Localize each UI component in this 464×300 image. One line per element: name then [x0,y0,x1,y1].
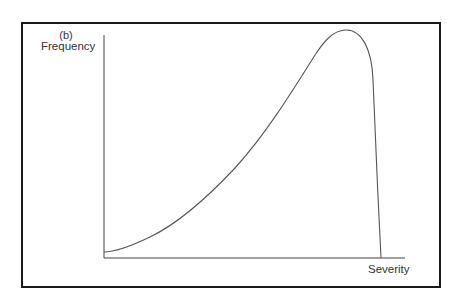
x-axis-label: Severity [368,263,410,275]
y-axis-label: Frequency [41,40,95,52]
frequency-curve [104,30,381,258]
